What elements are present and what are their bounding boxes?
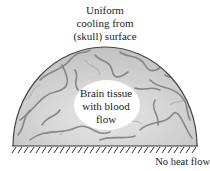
- inner-label-line-3: flow: [74, 113, 138, 126]
- top-label-line-1: Uniform: [50, 4, 160, 17]
- top-boundary-label: Uniform cooling from (skull) surface: [50, 4, 160, 43]
- top-label-line-2: cooling from: [50, 17, 160, 30]
- inner-label-line-1: Brain tissue: [74, 87, 138, 100]
- top-label-line-3: (skull) surface: [50, 30, 160, 43]
- bottom-boundary-label: No heat flow: [140, 155, 210, 168]
- inner-label-line-2: with blood: [74, 100, 138, 113]
- insulated-base-hatch: [12, 146, 198, 153]
- inner-region-label: Brain tissue with blood flow: [74, 87, 138, 126]
